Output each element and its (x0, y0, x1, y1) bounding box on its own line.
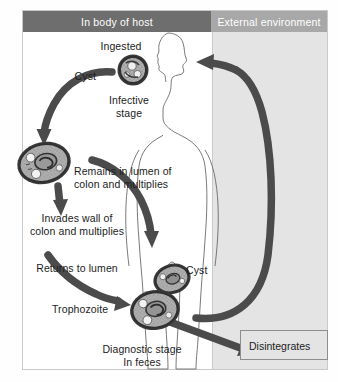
cyst-ingested-organism (118, 55, 149, 86)
trophozoite-invading-organism (13, 137, 75, 189)
label-invades-wall: Invades wall of colon and multiplies (18, 212, 136, 237)
diagram-canvas: In body of host External environment Ing… (0, 0, 338, 382)
diagram-artwork (0, 0, 338, 382)
host-panel-header: In body of host (23, 11, 211, 32)
host-panel-header-label: In body of host (81, 16, 153, 28)
environment-panel-header: External environment (211, 11, 327, 32)
label-cyst-bottom: Cyst (186, 264, 220, 277)
label-diagnostic-stage: Diagnostic stage In feces (96, 343, 188, 368)
label-trophozoite: Trophozoite (52, 303, 132, 316)
label-remains-in-lumen: Remains in lumen of colon and multiplies (74, 165, 184, 190)
label-cyst-top: Cyst (60, 70, 96, 83)
arrow-environment-to-mouth (196, 54, 236, 70)
arrow-environment-loop-up (196, 70, 271, 318)
environment-panel-header-label: External environment (217, 16, 320, 28)
label-returns-to-lumen: Returns to lumen (22, 262, 132, 275)
label-infective-stage: Infective stage (92, 94, 166, 119)
label-ingested: Ingested (86, 40, 156, 53)
label-disintegrates: Disintegrates (249, 340, 323, 352)
